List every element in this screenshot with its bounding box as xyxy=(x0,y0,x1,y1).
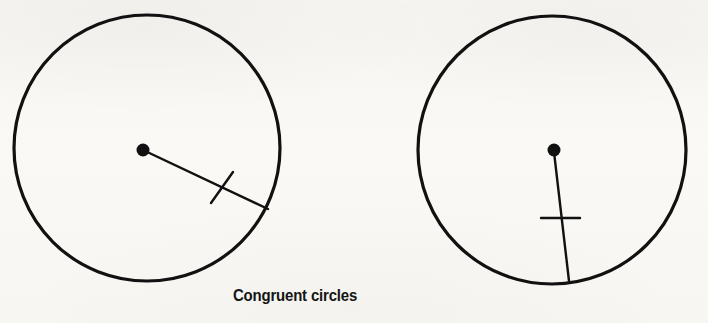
left-circle-tick-mark xyxy=(211,172,233,203)
right-circle-center-dot xyxy=(548,144,561,157)
circles-line-art xyxy=(0,0,708,323)
right-circle-radius-line xyxy=(554,152,569,281)
right-circle-group xyxy=(418,16,686,284)
geometry-figure: Congruent circles xyxy=(0,0,708,323)
figure-caption: Congruent circles xyxy=(35,286,554,306)
left-circle-radius-line xyxy=(143,150,268,209)
left-circle-group xyxy=(14,15,280,281)
left-circle-center-dot xyxy=(137,144,150,157)
